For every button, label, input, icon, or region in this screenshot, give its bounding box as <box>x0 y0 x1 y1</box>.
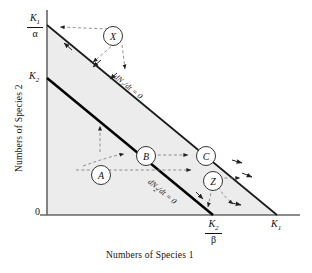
x-tick-k1: K1 <box>271 219 281 232</box>
plot-canvas <box>0 0 312 273</box>
x-axis-title: Numbers of Species 1 <box>106 250 194 260</box>
point-label-z: Z <box>207 176 219 187</box>
origin-label: 0 <box>35 207 40 217</box>
y-tick-k2: K2 <box>29 71 39 84</box>
point-label-x: X <box>107 31 119 42</box>
x-tick-k2-over-beta: K2 β <box>205 219 222 246</box>
y-axis-title: Numbers of Species 2 <box>14 84 24 172</box>
x-tick-beta-denominator: β <box>205 235 222 246</box>
y-tick-alpha-denominator: α <box>27 29 43 40</box>
x-tick-k2-numerator: K2 <box>205 219 222 232</box>
point-label-b: B <box>140 151 152 162</box>
competition-isocline-figure: X A B C Z K1 α K2 0 K2 β K1 dN1/dt = 0 d… <box>0 0 312 273</box>
point-label-c: C <box>200 151 212 162</box>
y-tick-k1-numerator: K1 <box>27 13 43 26</box>
y-tick-k1-over-alpha: K1 α <box>27 13 43 40</box>
point-label-a: A <box>95 170 107 181</box>
